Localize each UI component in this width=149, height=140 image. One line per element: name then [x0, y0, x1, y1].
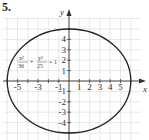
- x-tick-label: -3: [34, 82, 42, 92]
- y-tick-label: -1: [59, 86, 67, 96]
- y-tick-label: 2: [62, 55, 67, 65]
- eq-y-denominator: 25: [37, 63, 43, 69]
- eq-y-numerator: y²: [38, 55, 43, 61]
- eq-rhs: = 1: [49, 59, 57, 65]
- y-tick-label: -2: [59, 97, 67, 107]
- x-tick-label: 4: [108, 82, 113, 92]
- y-tick-label: -4: [59, 118, 67, 128]
- y-tick-label: 4: [62, 34, 67, 44]
- y-tick-label: 3: [62, 45, 67, 55]
- ellipse-equation: x² 36 + y² 25 = 1: [18, 55, 57, 69]
- x-tick-label: 1: [77, 82, 82, 92]
- x-axis-arrow-icon: [139, 79, 146, 84]
- x-tick-label: 3: [98, 82, 103, 92]
- y-tick-label: 1: [62, 66, 67, 76]
- x-tick-label: -5: [14, 82, 22, 92]
- y-tick-label: -3: [59, 107, 67, 117]
- eq-x-numerator: x²: [19, 55, 24, 61]
- x-tick-label: 2: [87, 82, 92, 92]
- y-axis-label: y: [59, 7, 64, 17]
- y-axis-arrow-icon: [67, 9, 72, 16]
- x-axis-label: x: [142, 84, 147, 94]
- x-tick-label: 5: [118, 82, 123, 92]
- ellipse-graph: -5-3-1123454321-1-2-3-4 x y x² 36 + y² 2…: [0, 0, 149, 140]
- eq-x-denominator: 36: [18, 63, 24, 69]
